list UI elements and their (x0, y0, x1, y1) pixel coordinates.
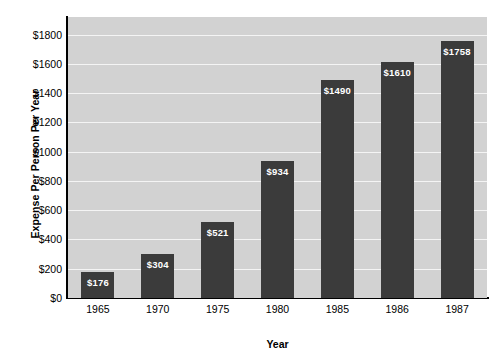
bar-value-label: $1610 (383, 67, 410, 78)
x-axis-tick-label: 1965 (86, 303, 109, 315)
bar: $521 (201, 222, 234, 298)
gridline (68, 35, 487, 36)
x-axis-tick-label: 1975 (206, 303, 229, 315)
x-axis-tick-label: 1970 (146, 303, 169, 315)
y-axis-tick-label: $1400 (0, 87, 62, 99)
gridline (68, 93, 487, 94)
bar-value-label: $1490 (324, 85, 351, 96)
bar-value-label: $176 (87, 277, 109, 288)
bar: $304 (141, 254, 174, 298)
bar-value-label: $934 (267, 166, 289, 177)
bar: $176 (81, 272, 114, 298)
y-axis-tick-label: $400 (0, 233, 62, 245)
x-axis-tick-label: 1986 (386, 303, 409, 315)
bar-value-label: $521 (207, 227, 229, 238)
gridline (68, 64, 487, 65)
bar: $1490 (321, 80, 354, 298)
gridline (68, 152, 487, 153)
x-axis-tick-label: 1980 (266, 303, 289, 315)
y-axis-tick-label: $1800 (0, 29, 62, 41)
x-axis-tick-label: 1985 (326, 303, 349, 315)
x-axis-title: Year (68, 338, 487, 350)
y-axis-tick-label: $600 (0, 204, 62, 216)
bar-chart: Expense Per Person Per Year $0$200$400$6… (0, 0, 499, 364)
bar: $1758 (441, 41, 474, 298)
bar: $934 (261, 161, 294, 298)
plot-area: $176$304$521$934$1490$1610$1758 (68, 17, 487, 298)
bar-value-label: $304 (147, 259, 169, 270)
y-axis-tick-label: $1200 (0, 116, 62, 128)
bar-value-label: $1758 (443, 46, 470, 57)
y-axis-tick-label: $1000 (0, 146, 62, 158)
y-axis-tick-label: $1600 (0, 58, 62, 70)
y-axis-tick-label: $0 (0, 292, 62, 304)
y-axis-tick-label: $200 (0, 263, 62, 275)
x-axis-tick-label: 1987 (445, 303, 468, 315)
gridline (68, 122, 487, 123)
y-axis-tick-label: $800 (0, 175, 62, 187)
bar: $1610 (381, 62, 414, 298)
y-axis-tick-labels: $0$200$400$600$800$1000$1200$1400$1600$1… (0, 0, 62, 364)
